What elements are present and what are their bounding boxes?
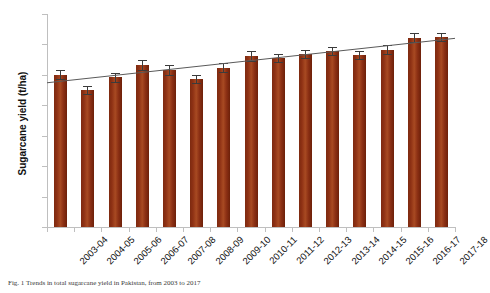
error-bar-cap-top: [192, 75, 201, 76]
bar: [136, 65, 149, 227]
x-tick-label: 2016-17: [430, 234, 462, 266]
x-tick-label: 2003-04: [77, 234, 109, 266]
figure-caption: Fig. 1 Trends in total sugarcane yield i…: [8, 279, 201, 287]
error-bar-cap-bottom: [219, 72, 228, 73]
error-bar: [332, 47, 333, 56]
error-bar-cap-bottom: [355, 59, 364, 60]
x-tick-mark: [237, 227, 238, 232]
error-bar-cap-bottom: [247, 61, 256, 62]
error-bar: [359, 51, 360, 59]
bar: [163, 70, 176, 227]
bar: [326, 51, 339, 227]
bar: [54, 75, 67, 227]
x-tick-label: 2008-09: [213, 234, 245, 266]
bar: [245, 56, 258, 227]
error-bar-cap-top: [437, 33, 446, 34]
bar: [190, 79, 203, 227]
error-bar: [278, 54, 279, 62]
x-tick-mark: [346, 227, 347, 232]
error-bar: [414, 33, 415, 42]
bar: [109, 77, 122, 227]
bar: [381, 50, 394, 227]
x-tick-label: 2012-13: [322, 234, 354, 266]
x-tick-mark: [210, 227, 211, 232]
x-tick-mark: [47, 227, 48, 232]
error-bar-cap-top: [328, 47, 337, 48]
error-bar-cap-top: [301, 50, 310, 51]
error-bar: [169, 65, 170, 74]
error-bar: [115, 73, 116, 82]
x-tick-label: 2005-06: [131, 234, 163, 266]
x-tick-mark: [156, 227, 157, 232]
x-tick-label: 2013-14: [349, 234, 381, 266]
error-bar-cap-top: [355, 51, 364, 52]
x-tick-label: 2011-12: [294, 234, 326, 266]
error-bar: [142, 60, 143, 70]
chart-canvas: Sugarcane yield (t/ha) 010203040506070 2…: [0, 0, 460, 272]
error-bar: [387, 45, 388, 54]
bar: [435, 37, 448, 227]
error-bar-cap-top: [383, 45, 392, 46]
bar: [299, 54, 312, 227]
error-bar: [223, 63, 224, 72]
x-tick-label: 2014-15: [376, 234, 408, 266]
error-bar-cap-top: [274, 54, 283, 55]
bar: [217, 68, 230, 227]
error-bar-cap-top: [219, 63, 228, 64]
error-bar: [87, 86, 88, 94]
error-bar-cap-top: [138, 60, 147, 61]
error-bar-cap-bottom: [274, 62, 283, 63]
error-bar-cap-top: [56, 70, 65, 71]
x-tick-label: 2006-07: [158, 234, 190, 266]
y-axis-title: Sugarcane yield (t/ha): [17, 34, 28, 214]
x-tick-mark: [292, 227, 293, 232]
error-bar-cap-top: [410, 33, 419, 34]
x-tick-mark: [373, 227, 374, 232]
plot-area: [47, 14, 455, 227]
error-bar-cap-top: [111, 73, 120, 74]
error-bar: [60, 70, 61, 79]
x-tick-mark: [319, 227, 320, 232]
bar: [81, 90, 94, 227]
error-bar-cap-bottom: [138, 70, 147, 71]
error-bar-cap-top: [165, 65, 174, 66]
error-bar-cap-bottom: [56, 79, 65, 80]
x-axis-line: [47, 227, 455, 228]
x-tick-mark: [265, 227, 266, 232]
bar: [353, 55, 366, 227]
error-bar-cap-bottom: [410, 42, 419, 43]
error-bar-cap-bottom: [328, 55, 337, 56]
error-bar-cap-bottom: [83, 94, 92, 95]
bar: [408, 38, 421, 227]
error-bar-cap-bottom: [165, 75, 174, 76]
x-tick-label: 2009-10: [240, 234, 272, 266]
x-tick-mark: [74, 227, 75, 232]
error-bar-cap-top: [247, 51, 256, 52]
error-bar: [251, 51, 252, 60]
x-tick-mark: [401, 227, 402, 232]
error-bar-cap-bottom: [301, 58, 310, 59]
x-tick-mark: [428, 227, 429, 232]
error-bar-cap-bottom: [111, 82, 120, 83]
x-tick-label: 2017-18: [458, 234, 490, 266]
x-tick-label: 2004-05: [104, 234, 136, 266]
x-tick-mark: [101, 227, 102, 232]
error-bar-cap-top: [83, 86, 92, 87]
bar: [272, 58, 285, 227]
x-tick-mark: [129, 227, 130, 232]
error-bar-cap-bottom: [437, 41, 446, 42]
error-bar-cap-bottom: [383, 54, 392, 55]
x-tick-mark: [455, 227, 456, 232]
x-tick-label: 2007-08: [186, 234, 218, 266]
x-tick-label: 2010-11: [267, 234, 299, 266]
x-tick-label: 2015-16: [403, 234, 435, 266]
error-bar-cap-bottom: [192, 83, 201, 84]
error-bar: [441, 33, 442, 41]
x-tick-mark: [183, 227, 184, 232]
error-bar: [305, 50, 306, 59]
error-bar: [196, 75, 197, 83]
